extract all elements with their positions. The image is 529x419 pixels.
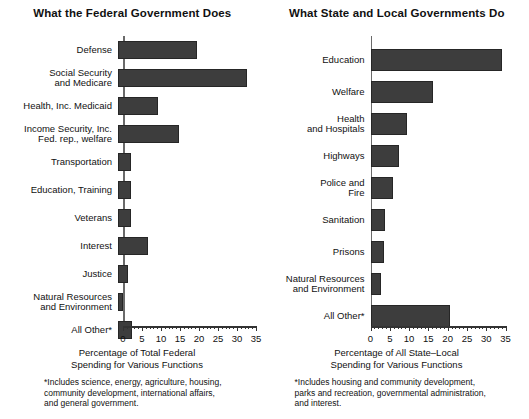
x-tick-major (237, 326, 238, 331)
x-tick-label: 20 (194, 333, 205, 344)
x-tick-major (161, 326, 162, 331)
x-tick-minor (172, 326, 173, 329)
x-tick-minor (248, 326, 249, 329)
page-title-state-local: What State and Local Governments Do (265, 7, 529, 19)
bar-label: Education (265, 55, 371, 66)
bar-track (118, 288, 265, 316)
x-tick-minor (413, 326, 414, 329)
bar-track (118, 36, 265, 64)
x-tick-minor (425, 326, 426, 329)
x-tick-minor (245, 326, 246, 329)
x-tick-minor (191, 326, 192, 329)
x-tick-major (390, 326, 391, 331)
bar-label: All Other* (0, 325, 118, 336)
table-row: Justice (0, 260, 265, 288)
table-row: Natural Resources and Environment (265, 268, 529, 300)
bar-label: Health and Hospitals (265, 114, 371, 135)
x-tick-minor (463, 326, 464, 329)
x-tick-major (142, 326, 143, 331)
bar-label: Highways (265, 151, 371, 162)
panel-federal-government: What the Federal Government Does Defense… (0, 0, 265, 419)
x-tick-minor (165, 326, 166, 329)
bar-label: Welfare (265, 87, 371, 98)
x-tick-minor (482, 326, 483, 329)
x-tick-minor (169, 326, 170, 329)
bar-label: Defense (0, 45, 118, 56)
x-tick-major (218, 326, 219, 331)
bar-interest (118, 237, 148, 255)
panel-state-local-governments: What State and Local Governments Do Educ… (265, 0, 529, 419)
bar-track (371, 76, 529, 108)
x-tick-minor (378, 326, 379, 329)
bar-social-security-and-medicare (118, 69, 247, 87)
x-tick-major (123, 326, 124, 331)
table-row: Income Security, Inc. Fed. rep., welfare (0, 120, 265, 148)
table-row: Education (265, 44, 529, 76)
bar-highways (371, 145, 399, 167)
x-tick-minor (176, 326, 177, 329)
x-tick-minor (184, 326, 185, 329)
x-tick-major (256, 326, 257, 331)
bar-label: Interest (0, 241, 118, 252)
x-tick-major (448, 326, 449, 331)
x-tick-label: 5 (387, 333, 392, 344)
x-tick-label: 10 (404, 333, 415, 344)
x-tick-minor (494, 326, 495, 329)
bar-track (371, 204, 529, 236)
x-tick-minor (475, 326, 476, 329)
x-tick-minor (138, 326, 139, 329)
x-tick-major (199, 326, 200, 331)
bar-label: Natural Resources and Environment (0, 292, 118, 313)
bar-natural-resources-and-environment (371, 273, 381, 295)
x-tick-minor (134, 326, 135, 329)
x-tick-minor (452, 326, 453, 329)
x-tick-label: 25 (213, 333, 224, 344)
table-row: Interest (0, 232, 265, 260)
x-tick-minor (401, 326, 402, 329)
bar-defense (118, 41, 197, 59)
x-tick-minor (455, 326, 456, 329)
bar-label: Police and Fire (265, 178, 371, 199)
bar-track (118, 260, 265, 288)
x-tick-minor (188, 326, 189, 329)
bar-track (371, 108, 529, 140)
x-tick-minor (157, 326, 158, 329)
x-tick-minor (203, 326, 204, 329)
x-tick-label: 0 (368, 333, 373, 344)
x-tick-minor (207, 326, 208, 329)
x-tick-label: 20 (442, 333, 453, 344)
bar-label: Prisons (265, 247, 371, 258)
bar-track (118, 176, 265, 204)
bar-income-security (118, 125, 179, 143)
table-row: Education, Training (0, 176, 265, 204)
table-row: Defense (0, 36, 265, 64)
bar-track (371, 268, 529, 300)
bar-track (118, 120, 265, 148)
table-row: Natural Resources and Environment (0, 288, 265, 316)
chart-federal: Defense Social Security and Medicare Hea… (0, 36, 265, 326)
table-row: Welfare (265, 76, 529, 108)
bar-track (118, 204, 265, 232)
footnote-federal: *Includes science, energy, agriculture, … (44, 377, 264, 409)
two-panel-bar-chart-figure: What the Federal Government Does Defense… (0, 0, 529, 419)
x-tick-minor (444, 326, 445, 329)
bar-health-inc-medicaid (118, 97, 158, 115)
x-tick-major (180, 326, 181, 331)
table-row: Social Security and Medicare (0, 64, 265, 92)
bar-label: Transportation (0, 157, 118, 168)
bar-rows-federal: Defense Social Security and Medicare Hea… (0, 36, 265, 344)
bar-label: Natural Resources and Environment (265, 274, 371, 295)
table-row: Health and Hospitals (265, 108, 529, 140)
x-tick-minor (421, 326, 422, 329)
bar-education-training (118, 181, 131, 199)
bar-label: Income Security, Inc. Fed. rep., welfare (0, 124, 118, 145)
x-tick-minor (394, 326, 395, 329)
bar-health-and-hospitals (371, 113, 407, 135)
x-tick-minor (436, 326, 437, 329)
x-tick-minor (386, 326, 387, 329)
table-row: Prisons (265, 236, 529, 268)
x-tick-minor (498, 326, 499, 329)
bar-transportation (118, 153, 131, 171)
x-tick-major (486, 326, 487, 331)
x-tick-minor (214, 326, 215, 329)
